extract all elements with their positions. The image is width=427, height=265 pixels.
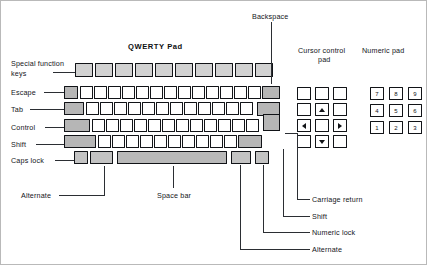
letter-key[interactable] [86, 102, 99, 115]
function-key[interactable] [155, 63, 173, 77]
callout-special-function-keys-line1: Special function [11, 59, 64, 68]
number-key[interactable] [234, 86, 247, 99]
arrow-up-key[interactable] [315, 103, 329, 116]
letter-key[interactable] [246, 119, 259, 132]
letter-key[interactable] [182, 135, 195, 148]
cursor-pad-key[interactable] [297, 87, 311, 100]
backspace-key[interactable] [262, 86, 280, 99]
shift-key-left[interactable] [64, 135, 96, 148]
number-key[interactable] [150, 86, 163, 99]
number-key[interactable] [122, 86, 135, 99]
letter-key[interactable] [198, 102, 211, 115]
numeric-lock-key[interactable] [255, 151, 269, 164]
arrow-left-key[interactable] [297, 119, 311, 132]
cursor-pad-key[interactable] [315, 119, 329, 132]
function-key[interactable] [115, 63, 133, 77]
letter-key[interactable] [204, 119, 217, 132]
numeric-key-9[interactable]: 9 [408, 87, 422, 100]
cursor-pad-key[interactable] [297, 135, 311, 148]
function-key[interactable] [75, 63, 93, 77]
space-bar-key[interactable] [117, 151, 227, 164]
letter-key[interactable] [190, 119, 203, 132]
leader-alternate-right-horizontal [240, 249, 310, 250]
number-key[interactable] [248, 86, 261, 99]
letter-key[interactable] [232, 119, 245, 132]
arrow-right-key[interactable] [333, 119, 347, 132]
numeric-key-label: 1 [371, 125, 383, 131]
function-key[interactable] [215, 63, 233, 77]
letter-key[interactable] [176, 119, 189, 132]
tab-key[interactable] [64, 102, 84, 115]
caps-lock-key[interactable] [74, 151, 88, 164]
letter-key[interactable] [212, 102, 225, 115]
numeric-key-2[interactable]: 2 [389, 121, 403, 134]
numeric-key-8[interactable]: 8 [389, 87, 403, 100]
numeric-key-label: 5 [390, 108, 402, 114]
escape-key[interactable] [64, 86, 78, 99]
numeric-key-1[interactable]: 1 [370, 121, 384, 134]
leader-escape [44, 92, 64, 93]
letter-key[interactable] [196, 135, 209, 148]
callout-numeric-lock: Numeric lock [312, 228, 355, 237]
letter-key[interactable] [100, 102, 113, 115]
numeric-key-3[interactable]: 3 [408, 121, 422, 134]
letter-key[interactable] [156, 102, 169, 115]
leader-alternate-right-vertical [240, 165, 241, 250]
letter-key[interactable] [154, 135, 167, 148]
arrow-down-key[interactable] [315, 135, 329, 148]
letter-key[interactable] [112, 135, 125, 148]
function-key[interactable] [95, 63, 113, 77]
letter-key[interactable] [240, 102, 253, 115]
letter-key[interactable] [106, 119, 119, 132]
letter-key[interactable] [218, 119, 231, 132]
heading-qwerty-pad: QWERTY Pad [128, 42, 183, 51]
letter-key[interactable] [210, 135, 223, 148]
number-key[interactable] [80, 86, 93, 99]
letter-key[interactable] [98, 135, 111, 148]
letter-key[interactable] [142, 102, 155, 115]
numeric-key-4[interactable]: 4 [370, 104, 384, 117]
letter-key[interactable] [226, 102, 239, 115]
number-key[interactable] [220, 86, 233, 99]
cursor-pad-key[interactable] [333, 103, 347, 116]
function-key[interactable] [235, 63, 253, 77]
letter-key[interactable] [126, 135, 139, 148]
function-key[interactable] [195, 63, 213, 77]
cursor-pad-key[interactable] [315, 87, 329, 100]
letter-key[interactable] [114, 102, 127, 115]
numeric-key-6[interactable]: 6 [408, 104, 422, 117]
function-key[interactable] [175, 63, 193, 77]
cursor-pad-key[interactable] [333, 135, 347, 148]
numeric-key-label: 6 [409, 108, 421, 114]
letter-key[interactable] [162, 119, 175, 132]
numeric-key-5[interactable]: 5 [389, 104, 403, 117]
control-key[interactable] [64, 119, 90, 132]
function-key[interactable] [135, 63, 153, 77]
number-key[interactable] [136, 86, 149, 99]
letter-key[interactable] [168, 135, 181, 148]
cursor-pad-key[interactable] [297, 103, 311, 116]
number-key[interactable] [94, 86, 107, 99]
letter-key[interactable] [148, 119, 161, 132]
letter-key[interactable] [134, 119, 147, 132]
number-key[interactable] [108, 86, 121, 99]
leader-alternate-left-horizontal [59, 195, 105, 196]
leader-space-bar [173, 166, 174, 188]
number-key[interactable] [178, 86, 191, 99]
numeric-key-label: 7 [371, 91, 383, 97]
letter-key[interactable] [140, 135, 153, 148]
number-key[interactable] [192, 86, 205, 99]
numeric-key-7[interactable]: 7 [370, 87, 384, 100]
letter-key[interactable] [184, 102, 197, 115]
number-key[interactable] [206, 86, 219, 99]
letter-key[interactable] [224, 135, 237, 148]
cursor-pad-key[interactable] [333, 87, 347, 100]
alternate-key-right[interactable] [231, 151, 251, 164]
number-key[interactable] [164, 86, 177, 99]
letter-key[interactable] [128, 102, 141, 115]
letter-key[interactable] [170, 102, 183, 115]
alternate-key-left[interactable] [90, 151, 113, 164]
letter-key[interactable] [92, 119, 105, 132]
shift-key-right[interactable] [238, 135, 262, 148]
letter-key[interactable] [120, 119, 133, 132]
